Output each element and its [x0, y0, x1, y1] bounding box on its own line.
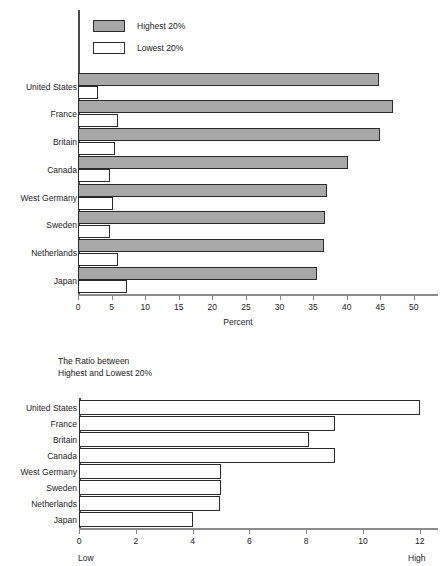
- bar-highest: [78, 73, 379, 86]
- x-tick: [313, 295, 314, 300]
- bar-ratio: [79, 400, 420, 415]
- x-tick-label: 30: [265, 302, 295, 312]
- x-tick-label: 10: [130, 302, 160, 312]
- x-tick-label: 4: [178, 536, 208, 546]
- y-axis-label: Britain: [3, 137, 77, 147]
- axis-low-label: Low: [78, 553, 94, 563]
- y-axis-label: Sweden: [3, 220, 77, 230]
- bar-ratio: [79, 448, 335, 463]
- x-tick-label: 6: [234, 536, 264, 546]
- y-axis-label: Netherlands: [3, 499, 77, 509]
- x-tick: [179, 295, 180, 300]
- ratio-chart: The Ratio between Highest and Lowest 20%…: [0, 340, 447, 566]
- x-tick-label: 0: [64, 536, 94, 546]
- x-tick: [280, 295, 281, 300]
- y-axis-label: Japan: [3, 276, 77, 286]
- chart-title-line1: The Ratio between: [58, 355, 129, 367]
- x-tick-label: 12: [405, 536, 435, 546]
- x-tick-label: 0: [63, 302, 93, 312]
- y-axis-label: Sweden: [3, 483, 77, 493]
- x-tick-label: 45: [365, 302, 395, 312]
- figure-root: Highest 20% Lowest 20% 05101520253035404…: [0, 0, 447, 566]
- x-tick: [145, 295, 146, 300]
- x-tick-label: 5: [97, 302, 127, 312]
- y-axis-label: France: [3, 109, 77, 119]
- x-tick: [193, 529, 194, 534]
- bar-highest: [78, 267, 317, 280]
- bar-lowest: [78, 86, 98, 99]
- x-tick: [249, 529, 250, 534]
- axis-high-label: High: [408, 553, 425, 563]
- x-tick: [78, 295, 79, 300]
- x-tick-label: 25: [231, 302, 261, 312]
- y-axis-label: Netherlands: [3, 248, 77, 258]
- bar-highest: [78, 211, 325, 224]
- x-tick: [363, 529, 364, 534]
- x-tick-label: 50: [399, 302, 429, 312]
- y-axis-label: France: [3, 419, 77, 429]
- x-tick-label: 2: [121, 536, 151, 546]
- x-tick: [212, 295, 213, 300]
- bar-lowest: [78, 225, 110, 238]
- x-axis-title: Percent: [178, 317, 298, 327]
- bar-lowest: [78, 280, 127, 293]
- legend-label-highest: Highest 20%: [137, 20, 185, 32]
- x-axis-line: [78, 294, 438, 296]
- x-tick-label: 40: [332, 302, 362, 312]
- x-tick-label: 10: [348, 536, 378, 546]
- x-tick-label: 20: [197, 302, 227, 312]
- bar-lowest: [78, 114, 118, 127]
- bar-ratio: [79, 512, 193, 527]
- x-tick: [347, 295, 348, 300]
- y-axis-label: Canada: [3, 165, 77, 175]
- bar-lowest: [78, 169, 110, 182]
- bar-ratio: [79, 416, 335, 431]
- y-axis-label: United States: [3, 82, 77, 92]
- bar-lowest: [78, 142, 115, 155]
- legend-swatch-lowest-icon: [93, 42, 125, 54]
- bar-ratio: [79, 496, 220, 511]
- x-tick-label: 8: [291, 536, 321, 546]
- x-tick-label: 35: [298, 302, 328, 312]
- bar-ratio: [79, 464, 221, 479]
- y-axis-label: West Germany: [3, 193, 77, 203]
- x-tick: [246, 295, 247, 300]
- bar-lowest: [78, 253, 118, 266]
- bar-highest: [78, 128, 380, 141]
- legend-label-lowest: Lowest 20%: [137, 42, 183, 54]
- bar-highest: [78, 156, 348, 169]
- x-tick: [414, 295, 415, 300]
- y-axis-label: Canada: [3, 451, 77, 461]
- x-tick: [420, 529, 421, 534]
- x-tick: [380, 295, 381, 300]
- bar-highest: [78, 100, 393, 113]
- x-tick: [306, 529, 307, 534]
- x-tick: [136, 529, 137, 534]
- y-axis-label: West Germany: [3, 467, 77, 477]
- x-tick: [79, 529, 80, 534]
- x-tick: [112, 295, 113, 300]
- x-axis-line: [79, 528, 438, 530]
- bar-ratio: [79, 432, 309, 447]
- bar-lowest: [78, 197, 113, 210]
- y-axis-label: Britain: [3, 435, 77, 445]
- bar-highest: [78, 239, 324, 252]
- y-axis-label: Japan: [3, 515, 77, 525]
- bar-ratio: [79, 480, 221, 495]
- x-tick-label: 15: [164, 302, 194, 312]
- chart-title-line2: Highest and Lowest 20%: [58, 367, 152, 379]
- income-share-chart: Highest 20% Lowest 20% 05101520253035404…: [0, 0, 447, 320]
- legend-swatch-highest-icon: [93, 20, 125, 32]
- bar-highest: [78, 184, 327, 197]
- y-axis-label: United States: [3, 403, 77, 413]
